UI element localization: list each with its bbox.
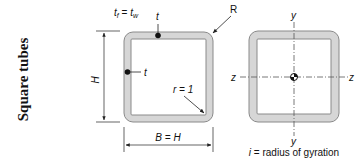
centroid-icon bbox=[291, 74, 298, 81]
svg-text:B = H: B = H bbox=[155, 132, 181, 143]
axis-z-left-label: z bbox=[230, 72, 236, 83]
top-wall-thickness-marker: t bbox=[155, 11, 161, 38]
radius-of-gyration-caption: i = radius of gyration bbox=[249, 147, 339, 158]
width-dimension: B = H bbox=[124, 127, 213, 152]
square-tube-diagram: tf = tw t t R r = 1 H B = H bbox=[0, 0, 357, 159]
left-tube-section bbox=[124, 32, 213, 122]
height-dimension: H bbox=[90, 31, 120, 122]
axis-y-top-label: y bbox=[290, 10, 297, 21]
svg-text:R: R bbox=[230, 4, 237, 15]
axis-y-bottom-label: y bbox=[290, 136, 297, 147]
outer-radius-marker: R bbox=[213, 4, 237, 33]
axis-z-right-label: z bbox=[348, 72, 354, 83]
svg-text:H: H bbox=[90, 76, 101, 84]
svg-text:t: t bbox=[156, 11, 160, 22]
thickness-relation-label: tf = tw bbox=[114, 7, 139, 19]
svg-text:r = 1: r = 1 bbox=[173, 84, 193, 95]
